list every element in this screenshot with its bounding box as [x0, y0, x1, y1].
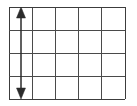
grid-diagram-svg — [0, 0, 137, 106]
grid-arrow-figure: Grid with vertical double-headed dimensi… — [0, 0, 137, 106]
